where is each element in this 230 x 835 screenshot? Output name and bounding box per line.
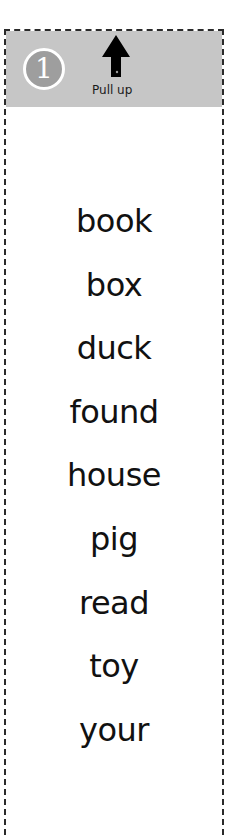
word-item: box xyxy=(6,265,222,329)
pull-up-label: Pull up xyxy=(92,83,132,97)
arrow-up-icon xyxy=(102,35,130,79)
word-item: house xyxy=(6,455,222,519)
word-item: toy xyxy=(6,646,222,710)
word-list: book box duck found house pig read toy y… xyxy=(6,201,222,773)
word-item: read xyxy=(6,583,222,647)
word-item: pig xyxy=(6,519,222,583)
pull-tab-strip[interactable]: 1 Pull up book box duck found house pig … xyxy=(4,29,224,835)
step-number-badge: 1 xyxy=(23,48,65,90)
strip-header: 1 Pull up xyxy=(6,31,222,107)
word-item: your xyxy=(6,710,222,774)
word-item: found xyxy=(6,392,222,456)
word-item: book xyxy=(6,201,222,265)
word-item: duck xyxy=(6,328,222,392)
